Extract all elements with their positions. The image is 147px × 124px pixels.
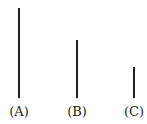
label-c: (C) xyxy=(119,104,147,120)
line-b xyxy=(76,40,78,98)
label-a: (A) xyxy=(4,104,34,120)
line-c xyxy=(133,67,135,98)
label-b: (B) xyxy=(62,104,92,120)
line-a xyxy=(18,8,20,98)
